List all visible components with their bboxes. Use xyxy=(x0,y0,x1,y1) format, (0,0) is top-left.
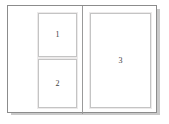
frame-box-2-label: 2 xyxy=(56,80,60,88)
frame-box-1[interactable]: 1 xyxy=(38,13,77,57)
layout-canvas: 1 2 3 xyxy=(0,0,169,124)
right-pane: 3 xyxy=(83,6,158,114)
document-card: 1 2 3 xyxy=(7,5,157,113)
left-pane: 1 2 xyxy=(8,6,82,114)
frame-box-2[interactable]: 2 xyxy=(38,59,77,108)
frame-box-1-label: 1 xyxy=(56,31,60,39)
frame-box-3-label: 3 xyxy=(119,57,123,65)
frame-box-3[interactable]: 3 xyxy=(90,13,151,108)
